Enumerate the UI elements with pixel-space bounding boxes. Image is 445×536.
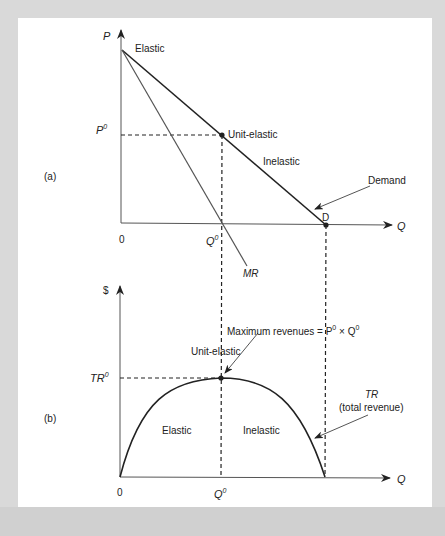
mr-curve (122, 50, 247, 266)
tr-pointer-arrow (315, 415, 368, 438)
panel-b-label: (b) (44, 413, 56, 424)
unit-elastic-label-b: Unit-elastic (191, 346, 240, 357)
d-guide-vertical (325, 225, 326, 477)
tr-curve (120, 378, 325, 477)
origin-label-b: 0 (117, 487, 123, 498)
elastic-label-a: Elastic (135, 43, 164, 54)
p0-label: P0 (96, 123, 107, 136)
max-revenue-point (218, 375, 223, 380)
mr-label: MR (243, 268, 259, 279)
q-axis-label-a: Q (397, 220, 406, 232)
q-axis-a (121, 223, 392, 225)
tr-label: TR (365, 389, 378, 400)
q0-label-b: Q0 (214, 487, 227, 500)
p-axis-label: P (103, 30, 111, 42)
elasticity-diagram: P Elastic P0 Unit-elastic Inelastic (a) … (0, 0, 445, 536)
panel-b: $ Maximum revenues = P0 × Q0 Unit-elasti… (44, 285, 406, 500)
origin-label-a: 0 (119, 234, 125, 245)
q0-guide-vertical (221, 135, 222, 477)
q-axis-label-b: Q (397, 473, 406, 485)
q-axis-b (120, 477, 390, 478)
tr0-label: TR0 (90, 371, 109, 384)
unit-elastic-label-a: Unit-elastic (228, 129, 277, 140)
inelastic-label-a: Inelastic (263, 156, 300, 167)
max-revenue-label: Maximum revenues = P0 × Q0 (227, 324, 359, 337)
demand-label: Demand (368, 175, 406, 186)
demand-pointer-arrow (315, 186, 370, 209)
elastic-label-b: Elastic (162, 425, 191, 436)
panel-a-label: (a) (44, 171, 56, 182)
inelastic-label-b: Inelastic (243, 425, 280, 436)
d-point-label: D (322, 212, 329, 223)
q0-label-a: Q0 (206, 234, 219, 247)
tr-sublabel: (total revenue) (339, 402, 403, 413)
demand-curve (122, 50, 326, 225)
dollar-axis-label: $ (103, 285, 109, 296)
d-point (323, 222, 328, 227)
unit-elastic-point (219, 132, 224, 137)
